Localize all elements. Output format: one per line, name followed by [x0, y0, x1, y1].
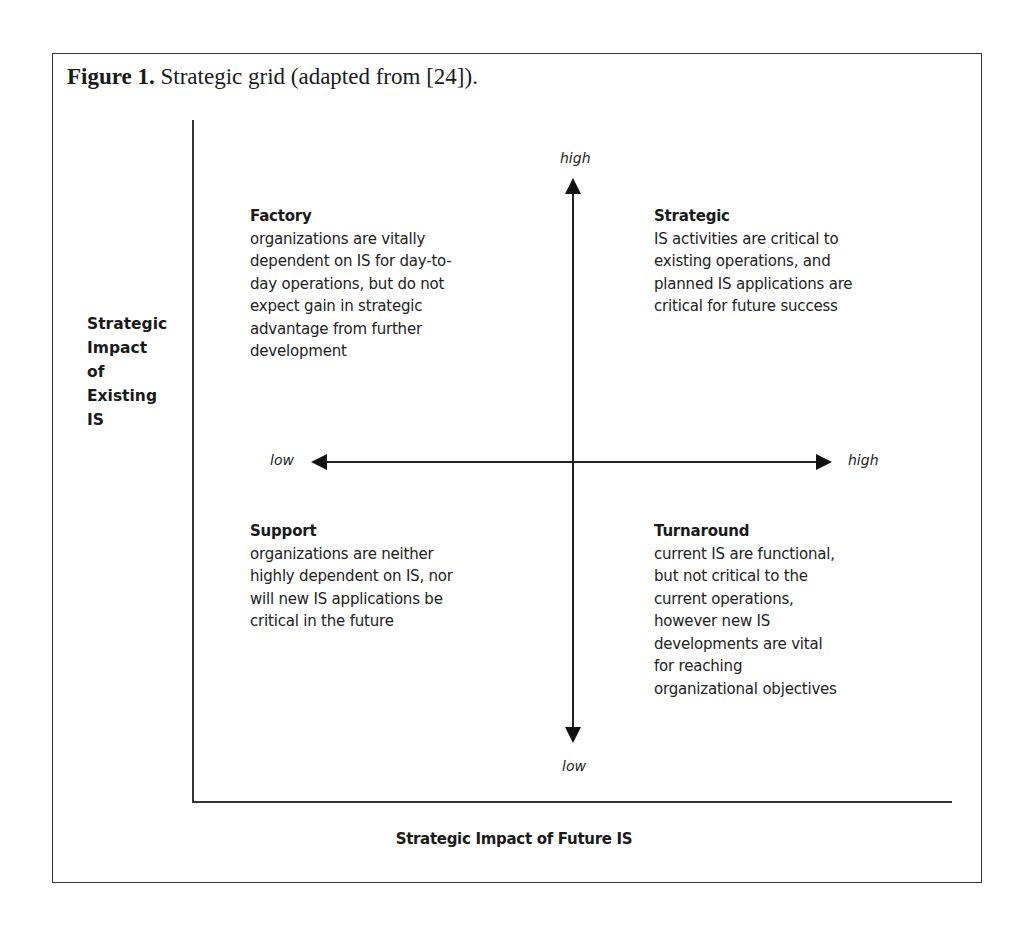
quadrant-description: current IS are functional, but not criti… [654, 543, 837, 701]
y-axis-line [192, 120, 194, 803]
quadrant-title: Support [250, 520, 453, 543]
quadrant-title: Factory [250, 205, 452, 228]
arrow-up-icon [565, 178, 581, 194]
quadrant-title: Turnaround [654, 520, 837, 543]
horizontal-low-label: low [270, 452, 294, 468]
caption-text: Strategic grid (adapted from [24]). [155, 64, 478, 89]
quadrant-title: Strategic [654, 205, 852, 228]
caption-label: Figure 1. [67, 64, 155, 89]
quadrant-factory: Factory organizations are vitally depend… [250, 205, 452, 363]
quadrant-turnaround: Turnaround current IS are functional, bu… [654, 520, 837, 700]
x-axis-title: Strategic Impact of Future IS [0, 830, 1028, 848]
quadrant-strategic: Strategic IS activities are critical to … [654, 205, 852, 318]
horizontal-high-label: high [848, 452, 879, 468]
quadrant-description: organizations are neither highly depende… [250, 543, 453, 633]
figure-caption: Figure 1. Strategic grid (adapted from [… [67, 64, 478, 90]
quadrant-description: organizations are vitally dependent on I… [250, 228, 452, 363]
horizontal-arrow-shaft [320, 461, 822, 463]
arrow-down-icon [565, 727, 581, 743]
vertical-arrow-shaft [572, 190, 574, 730]
vertical-low-label: low [562, 758, 586, 774]
arrow-left-icon [311, 454, 327, 470]
quadrant-description: IS activities are critical to existing o… [654, 228, 852, 318]
quadrant-support: Support organizations are neither highly… [250, 520, 453, 633]
vertical-high-label: high [560, 150, 591, 166]
arrow-right-icon [816, 454, 832, 470]
x-axis-line [192, 801, 952, 803]
y-axis-title: Strategic Impact of Existing IS [87, 312, 167, 432]
